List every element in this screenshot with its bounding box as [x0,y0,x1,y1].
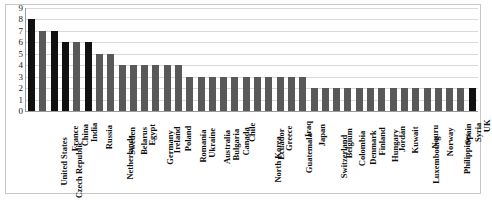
bar [322,88,329,111]
y-tick-label: 1 [19,95,24,104]
x-label-slot: Hungary [365,113,376,193]
bar-slot [139,8,150,111]
x-label-slot: Colombia [331,113,342,193]
y-axis-tick-labels: 0123456789 [6,8,25,111]
x-label-slot: Bulgaria [207,113,218,193]
x-label-slot: Australia [195,113,206,193]
x-axis-label-text: UK [483,119,492,132]
bar-slot [241,8,252,111]
y-tick-label: 0 [19,107,24,116]
x-label-slot: Iraq [286,113,297,193]
x-label-slot: Ireland [150,113,161,193]
bar-slot [207,8,218,111]
x-label-slot: Norway [421,113,432,193]
x-axis-category-labels: United StatesCzech RepublicFranceChinaIn… [26,113,478,193]
bar [28,19,35,111]
y-tick-label: 7 [19,26,24,35]
x-label-slot: UK [467,113,478,193]
x-label-slot: France [49,113,60,193]
x-label-slot: Luxembourg [399,113,410,193]
x-label-slot: Chile [229,113,240,193]
bars-container [26,8,478,111]
bar-slot [252,8,263,111]
x-label-slot: Philippines [433,113,444,193]
bar-slot [105,8,116,111]
x-label-slot: Japan [297,113,308,193]
x-axis-label: UK [478,107,487,120]
bar-slot [410,8,421,111]
bar [85,42,92,111]
bar-slot [94,8,105,111]
bar-slot [150,8,161,111]
x-label-slot: Germany [139,113,150,193]
bar [152,65,159,111]
bar-slot [376,8,387,111]
x-label-slot: Greece [263,113,274,193]
bar-slot [37,8,48,111]
y-tick-label: 9 [19,4,24,13]
x-label-slot: Belarus [116,113,127,193]
bar-slot [388,8,399,111]
x-label-slot: Switzerland [308,113,319,193]
bar-slot [26,8,37,111]
bar-slot [82,8,93,111]
x-label-slot: Canada [218,113,229,193]
y-tick-label: 8 [19,15,24,24]
x-label-slot: China [60,113,71,193]
x-label-slot: Czech Republic [37,113,48,193]
y-tick-label: 6 [19,38,24,47]
y-tick-label: 5 [19,49,24,58]
x-label-slot: Ecuador [252,113,263,193]
bar-slot [229,8,240,111]
bar-slot [286,8,297,111]
bar-slot [467,8,478,111]
x-label-slot: Romania [173,113,184,193]
x-label-slot: Denmark [342,113,353,193]
bar [39,31,46,111]
x-label-slot: Jordan [376,113,387,193]
y-tick-label: 3 [19,72,24,81]
x-label-slot: Belgium [320,113,331,193]
x-label-slot: Russia [82,113,93,193]
x-label-slot: Kuwait [388,113,399,193]
x-label-slot: India [71,113,82,193]
bar-slot [173,8,184,111]
x-label-slot: United States [26,113,37,193]
bar-slot [320,8,331,111]
x-label-slot: Ukraine [184,113,195,193]
y-tick-label: 4 [19,61,24,70]
x-label-slot: Netherlands [94,113,105,193]
x-label-slot: Guatemala [275,113,286,193]
x-label-slot: Finland [354,113,365,193]
x-label-slot: Poland [162,113,173,193]
x-label-slot: Sweden [105,113,116,193]
bar-slot [308,8,319,111]
x-label-slot: Nauru [410,113,421,193]
x-label-slot: Spain [444,113,455,193]
bar-slot [444,8,455,111]
x-label-slot: Syria [455,113,466,193]
bar [254,77,261,111]
x-label-slot: Egypt [128,113,139,193]
bar-slot [399,8,410,111]
y-tick-label: 2 [19,84,24,93]
x-label-slot: North Korea [241,113,252,193]
